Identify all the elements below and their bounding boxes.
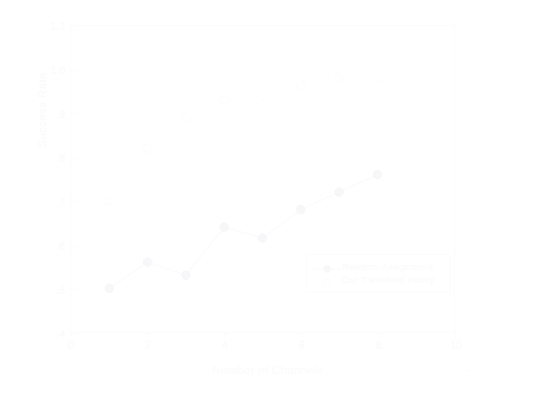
x-tick-mark — [225, 332, 226, 337]
plot-area: .4.5.6.7.8.91.01.1 0246810 Random Assign… — [70, 25, 455, 333]
y-tick-label: .5 — [56, 284, 65, 296]
x-tick-mark — [456, 332, 457, 337]
data-point-filled — [105, 284, 114, 293]
y-tick-label: .6 — [56, 240, 65, 252]
data-point-open — [258, 92, 266, 100]
y-tick-label: .4 — [56, 328, 65, 340]
series-our-threshold-policy — [105, 74, 381, 205]
x-tick-label: 2 — [145, 339, 151, 351]
y-tick-mark — [71, 334, 76, 335]
data-point-open — [335, 74, 343, 82]
data-point-filled — [297, 205, 306, 214]
data-point-filled — [335, 188, 344, 197]
corner-speck-artifact: • — [466, 366, 469, 376]
open-circle-icon — [312, 274, 342, 286]
data-point-filled — [373, 170, 382, 179]
data-point-open — [144, 144, 152, 152]
data-point-open — [297, 81, 305, 89]
x-tick-mark — [148, 332, 149, 337]
x-tick-mark — [71, 332, 72, 337]
legend-item-threshold-policy: Our Threshold Policy — [312, 273, 444, 286]
x-tick-label: 10 — [450, 339, 462, 351]
x-tick-label: 4 — [222, 339, 228, 351]
x-tick-label: 8 — [376, 339, 382, 351]
data-point-filled — [143, 258, 152, 267]
x-tick-label: 0 — [68, 339, 74, 351]
y-tick-label: 1.1 — [50, 20, 65, 32]
x-tick-mark — [302, 332, 303, 337]
x-tick-label: 6 — [299, 339, 305, 351]
data-point-open — [182, 114, 190, 122]
data-point-open — [373, 74, 381, 82]
x-axis-label: Number of Channels — [0, 364, 535, 376]
legend-label-threshold-policy: Our Threshold Policy — [342, 274, 435, 285]
data-point-filled — [182, 271, 191, 280]
chart-figure: Success Rate Number of Channels .4.5.6.7… — [0, 0, 535, 403]
data-point-open — [105, 197, 113, 205]
y-tick-label: .8 — [56, 152, 65, 164]
y-tick-label: .9 — [56, 108, 65, 120]
filled-circle-with-line-icon — [312, 261, 342, 273]
chart-legend: Random Assignment Our Threshold Policy — [306, 254, 451, 292]
y-axis-label: Success Rate — [36, 30, 48, 190]
legend-label-random-assignment: Random Assignment — [342, 261, 433, 272]
data-point-filled — [220, 223, 229, 232]
legend-item-random-assignment: Random Assignment — [312, 260, 444, 273]
data-point-filled — [258, 234, 267, 243]
x-tick-mark — [379, 332, 380, 337]
y-tick-label: .7 — [56, 196, 65, 208]
y-tick-label: 1.0 — [50, 64, 65, 76]
data-point-open — [220, 96, 228, 104]
